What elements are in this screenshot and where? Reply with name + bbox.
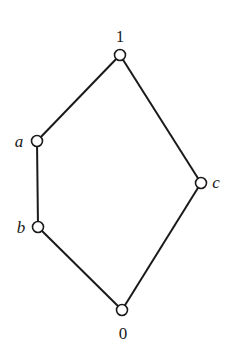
edge-top-c: [120, 55, 201, 183]
edge-top-a: [37, 55, 120, 141]
edge-a-b: [37, 141, 38, 227]
node-label-bottom: 0: [119, 324, 128, 343]
node-c: [196, 178, 207, 189]
node-top: [115, 50, 126, 61]
node-label-top: 1: [116, 27, 125, 46]
hasse-diagram: 1abc0: [0, 0, 231, 353]
node-b: [33, 222, 44, 233]
node-label-b: b: [17, 218, 26, 237]
nodes: [32, 50, 207, 316]
diagram-canvas: 1abc0: [0, 0, 231, 353]
edge-c-bottom: [122, 183, 201, 310]
labels: 1abc0: [15, 27, 220, 343]
node-a: [32, 136, 43, 147]
edges: [37, 55, 201, 310]
node-label-a: a: [15, 132, 24, 151]
node-bottom: [117, 305, 128, 316]
edge-b-bottom: [38, 227, 122, 310]
node-label-c: c: [212, 173, 220, 192]
